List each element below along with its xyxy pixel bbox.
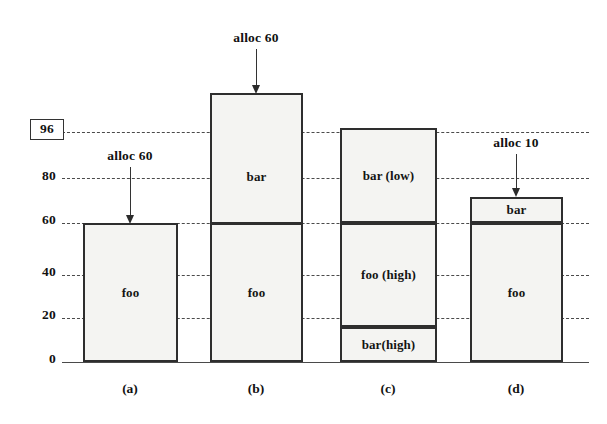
axis-tick-40-label: 40 xyxy=(42,264,56,279)
gridline-80 xyxy=(62,178,589,179)
bar-c-segment-bar-high: bar(high) xyxy=(340,327,437,362)
bar-a-segment-foo: foo xyxy=(83,223,178,362)
column-caption-b: (b) xyxy=(206,381,306,397)
annotation-alloc-a: alloc 60 xyxy=(80,148,180,164)
bar-c-segment-foo-high: foo (high) xyxy=(340,223,437,327)
bar-d-segment-foo: foo xyxy=(470,223,563,362)
axis-tick-0: 0 xyxy=(26,351,56,367)
bar-c-segment-bar-low: bar (low) xyxy=(340,128,437,223)
axis-tick-20-label: 20 xyxy=(42,307,56,322)
bar-c-segment-bar-high-label: bar(high) xyxy=(362,337,416,353)
bar-a-segment-foo-label: foo xyxy=(122,285,140,301)
axis-tick-80-label: 80 xyxy=(42,168,56,183)
annotation-alloc-b: alloc 60 xyxy=(206,30,306,46)
axis-baseline xyxy=(62,362,589,363)
annotation-alloc-b-text: alloc 60 xyxy=(233,30,278,45)
column-caption-a: (a) xyxy=(80,381,180,397)
bar-c-segment-bar-low-label: bar (low) xyxy=(363,168,415,184)
column-caption-d-text: (d) xyxy=(508,381,525,396)
axis-tick-0-label: 0 xyxy=(49,351,56,366)
bar-b-segment-foo: foo xyxy=(210,223,303,362)
axis-tick-96-label: 96 xyxy=(40,121,54,136)
memory-allocation-diagram: 96 80 60 40 20 0 alloc 60 foo (a) alloc … xyxy=(0,0,607,424)
bar-b-segment-bar: bar xyxy=(210,93,303,224)
bar-b-segment-foo-label: foo xyxy=(248,285,266,301)
gridline-96 xyxy=(62,132,589,133)
axis-tick-20: 20 xyxy=(26,307,56,323)
axis-tick-96: 96 xyxy=(30,119,64,140)
annotation-alloc-d-text: alloc 10 xyxy=(493,135,538,150)
column-caption-c: (c) xyxy=(338,381,438,397)
axis-tick-60-label: 60 xyxy=(42,212,56,227)
column-caption-b-text: (b) xyxy=(248,381,265,396)
bar-b-segment-bar-label: bar xyxy=(247,169,267,185)
bar-c-segment-foo-high-label: foo (high) xyxy=(361,267,416,283)
annotation-alloc-a-text: alloc 60 xyxy=(107,148,152,163)
axis-tick-60: 60 xyxy=(26,212,56,228)
column-caption-a-text: (a) xyxy=(122,381,138,396)
bar-d-segment-bar-label: bar xyxy=(507,202,527,218)
axis-tick-80: 80 xyxy=(26,168,56,184)
column-caption-c-text: (c) xyxy=(381,381,396,396)
axis-tick-40: 40 xyxy=(26,264,56,280)
column-caption-d: (d) xyxy=(466,381,566,397)
bar-d-segment-bar: bar xyxy=(470,197,563,223)
bar-d-segment-foo-label: foo xyxy=(508,285,526,301)
annotation-alloc-d: alloc 10 xyxy=(466,135,566,151)
